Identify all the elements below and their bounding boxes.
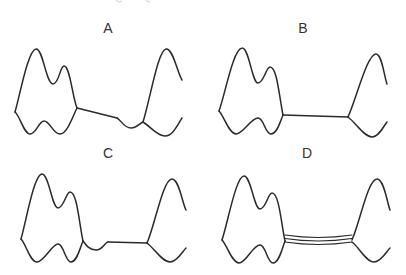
- connector-line-1: [285, 235, 352, 238]
- panel-label-c: C: [103, 145, 113, 161]
- right-profile-upper: [352, 179, 390, 240]
- left-profile-upper: [222, 176, 285, 241]
- left-profile-upper: [21, 174, 83, 241]
- left-profile-upper: [15, 49, 77, 112]
- panel-label-d: D: [302, 145, 312, 161]
- connector-dip: [117, 118, 143, 128]
- connector-dip: [83, 241, 108, 250]
- connector-line-3: [285, 242, 352, 245]
- connector-line: [108, 242, 147, 243]
- left-profile-upper: [219, 48, 283, 115]
- panel-label-a: A: [103, 20, 113, 36]
- panel-d: D: [222, 145, 390, 263]
- cropped-top-marks: [116, 0, 150, 2]
- right-profile-lower: [352, 242, 390, 262]
- panel-label-b: B: [298, 20, 307, 36]
- panel-b: B: [219, 20, 387, 137]
- connector-line: [283, 115, 348, 117]
- panel-a: A: [15, 20, 182, 136]
- right-profile-upper: [143, 49, 182, 122]
- diagram-figure: A B C D: [0, 0, 406, 275]
- connector-line: [77, 108, 117, 118]
- left-profile-lower: [21, 239, 83, 262]
- right-profile-lower: [147, 243, 186, 262]
- right-profile-upper: [147, 179, 186, 243]
- panel-c: C: [21, 145, 186, 262]
- connector-line-2: [285, 239, 352, 242]
- right-profile-lower: [143, 118, 182, 136]
- right-profile-lower: [348, 117, 387, 137]
- left-profile-lower: [222, 240, 285, 263]
- left-profile-lower: [219, 111, 283, 134]
- left-profile-lower: [15, 108, 77, 134]
- right-profile-upper: [348, 54, 387, 117]
